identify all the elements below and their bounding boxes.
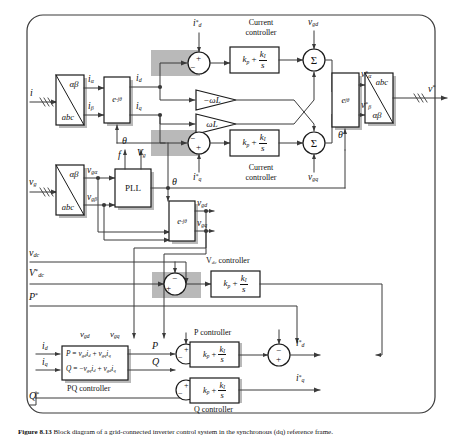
label-vgd-pq: vgd (80, 330, 90, 340)
label-current-controller-top: Currentcontroller (231, 18, 291, 38)
label-vdc-ref-input: V*dc (29, 268, 44, 279)
wire-cross-1 (236, 100, 314, 131)
figure-caption: Figure 8.13 Block diagram of a grid-conn… (18, 428, 448, 437)
sign-sum-vdc-top: − (172, 274, 177, 283)
inverse-park-label: ejθ (332, 93, 359, 107)
sign-sum-id-top: + (196, 54, 201, 63)
wire-iq-to-gain (160, 115, 195, 124)
park-vg-label: e-jθ (169, 214, 195, 228)
label-p-ref-input: P* (29, 292, 38, 302)
caption-number: Figure 8.13 (18, 428, 52, 436)
pi-d-expression: kp + kIs (230, 47, 279, 73)
label-vdc-input: vdc (29, 248, 39, 259)
label-theta-invpark: θ (338, 130, 343, 140)
gain-omega-L-label: ωL (199, 117, 225, 131)
label-current-controller-bottom: Currentcontroller (231, 163, 291, 183)
label-pll-vg-mag: Vg (137, 149, 146, 159)
label-iq-ref-out: i*q (296, 374, 305, 384)
pq-equation-p: P = vgdid + vgqiq (66, 350, 111, 359)
sign-sum-q-top: + (184, 382, 189, 390)
label-i-beta: iβ (88, 102, 94, 112)
label-iq-ref: i*q (193, 173, 202, 183)
sign-sum-id-left: − (190, 63, 195, 72)
sign-sum-iq-bottom: + (196, 143, 201, 152)
label-i-input: i (30, 88, 33, 98)
sign-sum-iq-left: − (190, 134, 195, 143)
label-id-ref-out: i*d (296, 339, 305, 349)
label-id-ref: i*d (193, 19, 202, 29)
label-pll-f: f (118, 150, 121, 160)
label-vg-input: vg (29, 177, 37, 188)
label-vgq-out: vgq (197, 219, 207, 229)
label-p-controller: P controller (194, 329, 231, 337)
label-vg-alpha: vgα (87, 166, 97, 176)
pi-q-expression: kp + kIs (230, 130, 279, 156)
clarke-current-bottom-label: abc (55, 110, 81, 124)
label-q-ref-input: Q* (29, 391, 39, 401)
wire-id-to-gain (160, 87, 195, 100)
gain-neg-omega-L-label: −ωL (198, 93, 226, 107)
park-current-label: e-jθ (104, 92, 130, 106)
sign-sum-idref-bottom: + (276, 355, 281, 364)
inverse-clarke-top-label: abc (370, 75, 394, 89)
block-diagram-canvas (0, 0, 453, 441)
pll-label: PLL (115, 181, 151, 195)
wire-cross-2 (236, 72, 314, 124)
label-vdc-controller: Vdc controller (206, 257, 250, 266)
label-vgq-sigma: vgq (308, 173, 318, 183)
pq-equation-q: Q = −vgqid + vgdiq (66, 365, 116, 374)
label-vgd-sigma: vgd (308, 18, 318, 28)
label-i-alpha: iα (88, 75, 94, 85)
clarke-current-top-label: αβ (62, 77, 86, 91)
label-iq-pq: iq (42, 358, 48, 368)
pi-vdc-expression: kp + kIs (211, 271, 260, 297)
label-q-controller: Q controller (194, 406, 233, 414)
pi-p-expression: kp + kIs (190, 342, 239, 367)
inverse-clarke-bottom-label: αβ (364, 108, 390, 122)
sigma-q-label: Σ (304, 135, 324, 151)
figure-container: i vg vdc V*dc P* Q* v* αβ abc iα iβ e-jθ… (0, 0, 453, 441)
sign-sum-q-left: − (178, 390, 183, 398)
clarke-vg-bottom-label: abc (55, 200, 81, 214)
sign-sum-p-left: − (178, 354, 183, 362)
label-vgd-out: vgd (197, 199, 207, 209)
sigma-d-label: Σ (304, 52, 324, 68)
label-q-signal: Q (152, 357, 159, 367)
label-pq-controller: PQ controller (67, 385, 110, 393)
pi-q2-expression: kp + kIs (190, 378, 239, 403)
label-theta-park-i: θ (122, 136, 127, 146)
label-v-out: v* (428, 84, 436, 94)
label-p-signal: P (152, 341, 158, 351)
label-i-d: id (136, 74, 142, 84)
label-vgq-pq: vgq (110, 330, 120, 340)
label-vg-beta: vgβ (87, 193, 97, 203)
label-id-pq: id (42, 342, 48, 352)
sign-sum-p-top: + (184, 346, 189, 354)
caption-text: Block diagram of a grid-connected invert… (53, 428, 333, 436)
wire-vgb-down (104, 205, 170, 240)
label-theta-pll: θ (172, 177, 177, 187)
label-i-q: iq (136, 102, 142, 112)
clarke-vg-top-label: αβ (62, 167, 86, 181)
sign-sum-vdc-left: + (166, 284, 171, 293)
